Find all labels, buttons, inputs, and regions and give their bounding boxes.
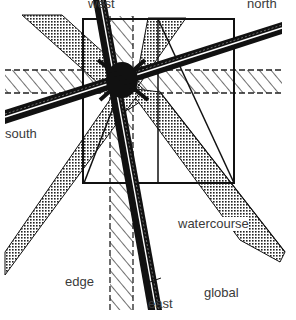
label-east: east bbox=[148, 297, 173, 311]
watercourse-band bbox=[128, 88, 285, 262]
label-edge-strips: edge strips bbox=[65, 247, 96, 320]
label-watercourse: watercourse bbox=[178, 217, 249, 231]
label-global-biological-net: global biological net bbox=[204, 258, 258, 320]
label-edge-strips-line1: edge bbox=[65, 275, 96, 289]
label-net-line1: global bbox=[204, 286, 258, 300]
label-south: south bbox=[5, 127, 37, 141]
label-north: north bbox=[247, 0, 277, 11]
label-west: west bbox=[88, 0, 115, 11]
